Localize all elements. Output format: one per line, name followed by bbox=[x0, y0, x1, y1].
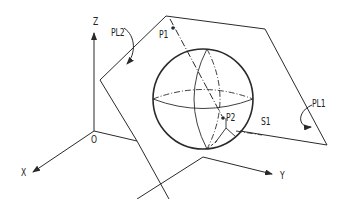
point-p1 bbox=[171, 26, 175, 30]
sphere-s1-label: S1 bbox=[261, 117, 271, 127]
y-axis-label: Y bbox=[280, 171, 285, 181]
plane-pl2-label: PL2 bbox=[111, 28, 125, 38]
plane-pl1-label: PL1 bbox=[312, 99, 326, 109]
point-p2-label: P2 bbox=[226, 113, 235, 123]
diagram-canvas bbox=[0, 0, 341, 199]
sphere-s1 bbox=[153, 49, 262, 149]
pl2-rotation-arrow bbox=[124, 28, 133, 64]
origin-to-plane-line bbox=[94, 131, 137, 141]
point-p1-label: P1 bbox=[159, 30, 168, 40]
y-axis bbox=[203, 157, 272, 174]
x-axis bbox=[33, 131, 94, 172]
x-axis-label: X bbox=[21, 168, 26, 178]
z-axis-label: Z bbox=[93, 17, 98, 27]
p1-p2-line bbox=[170, 19, 222, 116]
point-p2 bbox=[221, 116, 225, 120]
pl1-rotation-arrow bbox=[301, 105, 312, 127]
origin-label: O bbox=[91, 135, 97, 145]
plane-pl2 bbox=[100, 16, 327, 199]
